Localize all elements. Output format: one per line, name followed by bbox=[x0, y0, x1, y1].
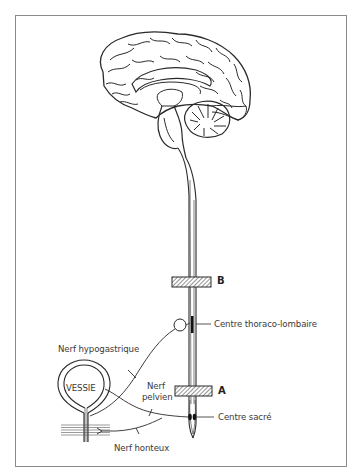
label-level-a: A bbox=[218, 386, 226, 396]
sacral-centre-mark-right bbox=[193, 414, 197, 420]
brain bbox=[100, 32, 250, 158]
label-nerf-hypogastrique: Nerf hypogastrique bbox=[58, 345, 139, 354]
bladder-innervation-diagram: B Centre thoraco-lombaire Nerf hypogastr… bbox=[0, 0, 364, 476]
label-nerf-pelvien-line1: Nerf bbox=[147, 382, 165, 391]
lesion-level-a bbox=[175, 386, 212, 396]
label-nerf-pelvien-line2: pelvien bbox=[142, 393, 173, 402]
label-vessie: VESSIE bbox=[66, 384, 96, 393]
hypogastric-nerve bbox=[90, 329, 175, 416]
pudendal-nerve bbox=[102, 418, 162, 431]
label-nerf-honteux: Nerf honteux bbox=[114, 444, 169, 453]
figure-frame bbox=[16, 16, 347, 467]
label-level-b: B bbox=[217, 276, 225, 286]
label-centre-sacre: Centre sacré bbox=[218, 413, 271, 422]
label-centre-thoraco-lombaire: Centre thoraco-lombaire bbox=[214, 320, 317, 329]
urethral-sphincter bbox=[61, 425, 110, 435]
lesion-level-b bbox=[172, 277, 211, 287]
thoraco-lumbar-centre-mark bbox=[191, 316, 194, 333]
sacral-centre-mark-left bbox=[188, 414, 192, 420]
ganglion bbox=[174, 319, 186, 331]
